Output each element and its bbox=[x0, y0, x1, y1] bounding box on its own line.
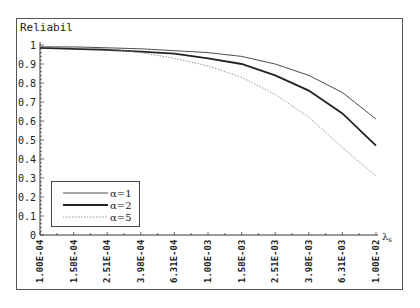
y-tick-label: 0.7 bbox=[18, 97, 36, 108]
chart-title: Reliabil bbox=[20, 21, 73, 34]
y-tick-label: 0.2 bbox=[18, 192, 36, 203]
x-tick-label: 1.58E-03 bbox=[237, 240, 247, 283]
y-axis: 00.10.20.30.40.50.60.70.80.91 bbox=[18, 40, 44, 241]
x-axis: 1.00E-041.58E-042.51E-043.98E-046.31E-04… bbox=[35, 232, 381, 283]
reliability-chart: Reliabil 00.10.20.30.40.50.60.70.80.91 1… bbox=[0, 0, 420, 308]
legend: α=1α=2α=5 bbox=[52, 182, 140, 227]
y-tick-label: 0 bbox=[30, 230, 36, 241]
x-tick-label: 3.98E-03 bbox=[304, 240, 314, 283]
x-axis-label: λs bbox=[382, 231, 392, 244]
x-tick-label: 2.51E-04 bbox=[102, 239, 112, 283]
legend-item: α=1 bbox=[110, 188, 132, 199]
y-tick-label: 0.4 bbox=[18, 154, 36, 165]
y-tick-label: 0.3 bbox=[18, 173, 36, 184]
y-tick-label: 0.5 bbox=[18, 135, 36, 146]
x-tick-label: 6.31E-04 bbox=[169, 239, 179, 283]
x-tick-label: 1.58E-04 bbox=[69, 239, 79, 283]
series-line bbox=[40, 47, 376, 176]
legend-item: α=5 bbox=[110, 212, 132, 223]
x-tick-label: 6.31E-03 bbox=[337, 240, 347, 283]
y-tick-label: 0.9 bbox=[18, 59, 36, 70]
y-tick-label: 0.8 bbox=[18, 78, 36, 89]
series-lines bbox=[40, 47, 376, 176]
series-line bbox=[40, 48, 376, 146]
y-tick-label: 0.1 bbox=[18, 211, 36, 222]
legend-item: α=2 bbox=[110, 200, 132, 211]
x-tick-label: 2.51E-03 bbox=[270, 240, 280, 283]
x-tick-label: 1.00E-03 bbox=[203, 240, 213, 283]
x-tick-label: 3.98E-04 bbox=[136, 239, 146, 283]
x-tick-label: 1.00E-02 bbox=[371, 240, 381, 283]
y-tick-label: 0.6 bbox=[18, 116, 36, 127]
y-tick-label: 1 bbox=[30, 40, 36, 51]
x-tick-label: 1.00E-04 bbox=[35, 239, 45, 283]
